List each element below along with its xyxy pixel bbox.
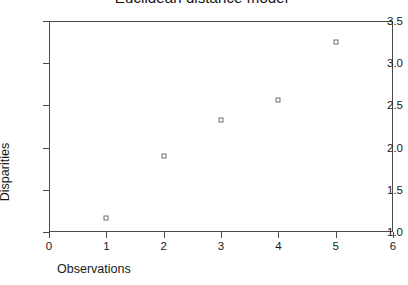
x-tick-label: 1 (91, 240, 121, 252)
x-axis-title: Observations (57, 262, 131, 276)
chart-title: Euclidean distance model (0, 0, 403, 6)
x-tick-mark (106, 232, 107, 238)
data-point-marker (161, 154, 166, 159)
x-tick-mark (393, 232, 394, 238)
data-point-marker (104, 215, 109, 220)
x-tick-label: 4 (263, 240, 293, 252)
x-tick-label: 3 (206, 240, 236, 252)
x-tick-mark (164, 232, 165, 238)
x-tick-label: 0 (34, 240, 64, 252)
x-tick-label: 5 (321, 240, 351, 252)
x-tick-label: 2 (149, 240, 179, 252)
data-point-marker (333, 40, 338, 45)
y-axis-title: Disparities (0, 140, 12, 204)
plot-area (49, 21, 393, 232)
x-tick-mark (49, 232, 50, 238)
x-tick-mark (221, 232, 222, 238)
data-point-marker (219, 117, 224, 122)
x-tick-label: 6 (378, 240, 408, 252)
x-tick-mark (336, 232, 337, 238)
data-point-marker (276, 98, 281, 103)
x-tick-mark (278, 232, 279, 238)
